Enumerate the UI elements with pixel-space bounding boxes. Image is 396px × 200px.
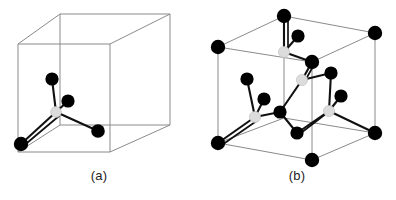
panel-a: (a) [0,0,198,200]
cube-edge-b-4 [218,118,284,143]
panel-b: (b) [198,0,396,200]
atom-b-interior-4 [257,92,270,105]
atom-b-interior-6 [273,105,286,118]
bond-a-center-right [56,112,98,131]
atom-a-right [91,124,105,138]
atom-b-interior-1 [291,29,304,42]
atom-b-interior-3 [324,66,337,79]
atom-b-corner-7 [305,153,319,167]
atom-b-interior-7 [290,126,303,139]
cube-edge-a-1 [18,14,60,44]
cube-edge-b-3 [312,133,375,160]
panel-b-caption: (b) [198,168,396,184]
cube-edge-a-2 [110,14,170,44]
figure-root: (a) [0,0,396,200]
atom-b-interior-5 [334,89,347,102]
atom-b-corner-1 [277,9,291,23]
atom-b-face-mid [296,74,307,85]
atom-b-corner-2 [368,26,382,40]
atom-b-face-top [278,46,289,57]
panel-b-diagram [198,0,396,172]
atom-b-face-left [249,111,260,122]
atom-b-corner-6 [368,126,382,140]
atom-b-interior-2 [240,72,253,85]
panel-a-caption: (a) [0,168,198,184]
atom-a-mid [61,94,74,107]
atom-b-face-right [323,105,334,116]
atom-b-corner-5 [211,136,225,150]
cube-back-face-a [60,14,170,125]
atom-b-corner-3 [211,40,225,54]
cube-edge-b-2 [312,33,375,62]
atom-b-corner-4 [305,55,319,69]
cube-edge-b-1 [218,16,284,47]
atom-a-center [51,107,62,118]
atom-a-top [45,72,58,85]
atom-a-left [14,137,28,151]
cube-edge-a-3 [110,125,170,152]
panel-a-diagram [0,0,198,172]
